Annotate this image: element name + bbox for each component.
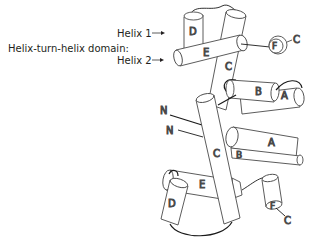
helix-b-upper	[226, 80, 280, 102]
helix-b-upper-label: B	[255, 86, 262, 97]
helix-a-lower-label: A	[268, 137, 275, 148]
helix-e-lower-label: E	[199, 179, 205, 190]
helix-f-lower-label: F	[270, 201, 275, 211]
helix-c-upper-label: C	[225, 61, 232, 72]
lower-n-terminus: N	[166, 125, 173, 136]
upper-c-terminus: C	[293, 34, 300, 45]
helix-b-lower-label: B	[236, 150, 242, 160]
helix-d-lower-label: D	[168, 198, 176, 209]
helix-c-lower-label: C	[213, 148, 220, 159]
upper-n-terminus: N	[160, 105, 167, 116]
helix-d-upper-label: D	[189, 26, 197, 37]
helix-f-upper-label: F	[272, 41, 277, 51]
protein-structure-diagram: C D E F C A	[0, 0, 312, 244]
helix-2-arrow	[152, 58, 164, 62]
helix-e-upper-label: E	[203, 47, 209, 58]
helix-1-arrow	[152, 31, 165, 35]
helix-a-upper-label: A	[281, 90, 288, 101]
lower-c-terminus: C	[284, 215, 291, 226]
